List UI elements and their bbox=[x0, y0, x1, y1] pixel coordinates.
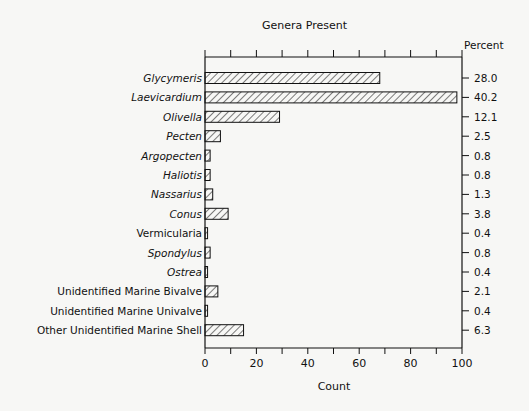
x-tick-label: 0 bbox=[202, 357, 209, 370]
percent-label: 28.0 bbox=[474, 72, 497, 84]
percent-label: 3.8 bbox=[474, 208, 491, 220]
percent-label: 2.1 bbox=[474, 285, 491, 297]
percent-label: 0.4 bbox=[474, 266, 491, 278]
x-tick-label: 20 bbox=[249, 357, 263, 370]
category-label: Argopecten bbox=[141, 150, 202, 162]
bar-plot bbox=[0, 0, 529, 411]
bar bbox=[205, 247, 210, 258]
x-tick-label: 80 bbox=[404, 357, 418, 370]
bar bbox=[205, 189, 213, 200]
category-label: Olivella bbox=[163, 111, 202, 123]
category-label: Unidentified Marine Bivalve bbox=[57, 285, 202, 297]
percent-label: 1.3 bbox=[474, 188, 491, 200]
category-label: Glycymeris bbox=[143, 72, 202, 84]
percent-label: 0.8 bbox=[474, 150, 491, 162]
percent-label: 0.4 bbox=[474, 227, 491, 239]
x-axis-label: Count bbox=[318, 380, 351, 393]
percent-label: 6.3 bbox=[474, 324, 491, 336]
bar bbox=[205, 111, 280, 122]
x-tick-label: 100 bbox=[452, 357, 473, 370]
bar bbox=[205, 150, 210, 161]
bar bbox=[205, 131, 220, 142]
category-label: Vermicularia bbox=[136, 227, 202, 239]
category-label: Other Unidentified Marine Shell bbox=[37, 324, 202, 336]
category-label: Laevicardium bbox=[131, 91, 202, 103]
category-label: Spondylus bbox=[148, 247, 202, 259]
category-label: Pecten bbox=[166, 130, 202, 142]
bar bbox=[205, 170, 210, 181]
bar bbox=[205, 286, 218, 297]
category-label: Unidentified Marine Univalve bbox=[50, 305, 202, 317]
percent-label: 0.8 bbox=[474, 169, 491, 181]
bar bbox=[205, 325, 244, 336]
percent-label: 40.2 bbox=[474, 91, 497, 103]
bar bbox=[205, 208, 228, 219]
category-label: Nassarius bbox=[151, 188, 202, 200]
percent-label: 12.1 bbox=[474, 111, 497, 123]
bar bbox=[205, 267, 208, 278]
bar bbox=[205, 305, 208, 316]
category-label: Haliotis bbox=[163, 169, 202, 181]
category-label: Ostrea bbox=[167, 266, 202, 278]
category-label: Conus bbox=[169, 208, 202, 220]
percent-label: 2.5 bbox=[474, 130, 491, 142]
percent-label: 0.8 bbox=[474, 247, 491, 259]
x-tick-label: 60 bbox=[352, 357, 366, 370]
bar bbox=[205, 228, 208, 239]
bar bbox=[205, 92, 457, 103]
percent-label: 0.4 bbox=[474, 305, 491, 317]
x-tick-label: 40 bbox=[301, 357, 315, 370]
bar bbox=[205, 73, 380, 84]
